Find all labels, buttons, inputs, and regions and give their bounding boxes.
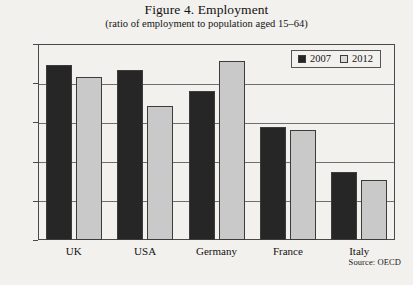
bar-usa-2012 [147,106,173,240]
y-axis-tick-mark [33,240,38,241]
bar-uk-2007 [46,65,72,240]
legend-item-2012: 2012 [340,54,373,64]
x-axis-tick-label-italy: Italy [309,245,409,257]
legend-item-2007: 2007 [298,54,331,64]
bar-italy-2007 [331,172,357,240]
bar-usa-2007 [117,70,143,240]
legend-label-2007: 2007 [310,54,331,64]
bar-germany-2007 [189,91,215,240]
source-note: Source: OECD [349,257,401,267]
legend-label-2012: 2012 [352,54,373,64]
chart-title-block: Figure 4. Employment (ratio of employmen… [0,2,413,30]
bars-layer [38,44,395,240]
figure-employment-chart: Figure 4. Employment (ratio of employmen… [0,0,413,285]
page-title: Figure 4. Employment [0,2,413,17]
chart-subtitle: (ratio of employment to population aged … [0,17,413,30]
bar-italy-2012 [361,180,387,240]
bar-germany-2012 [219,61,245,240]
bar-uk-2012 [76,77,102,240]
legend-swatch-icon-2012 [340,55,348,63]
bar-france-2007 [260,127,286,240]
legend-swatch-icon-2007 [298,55,306,63]
bar-france-2012 [290,130,316,240]
chart-legend: 20072012 [291,50,381,68]
